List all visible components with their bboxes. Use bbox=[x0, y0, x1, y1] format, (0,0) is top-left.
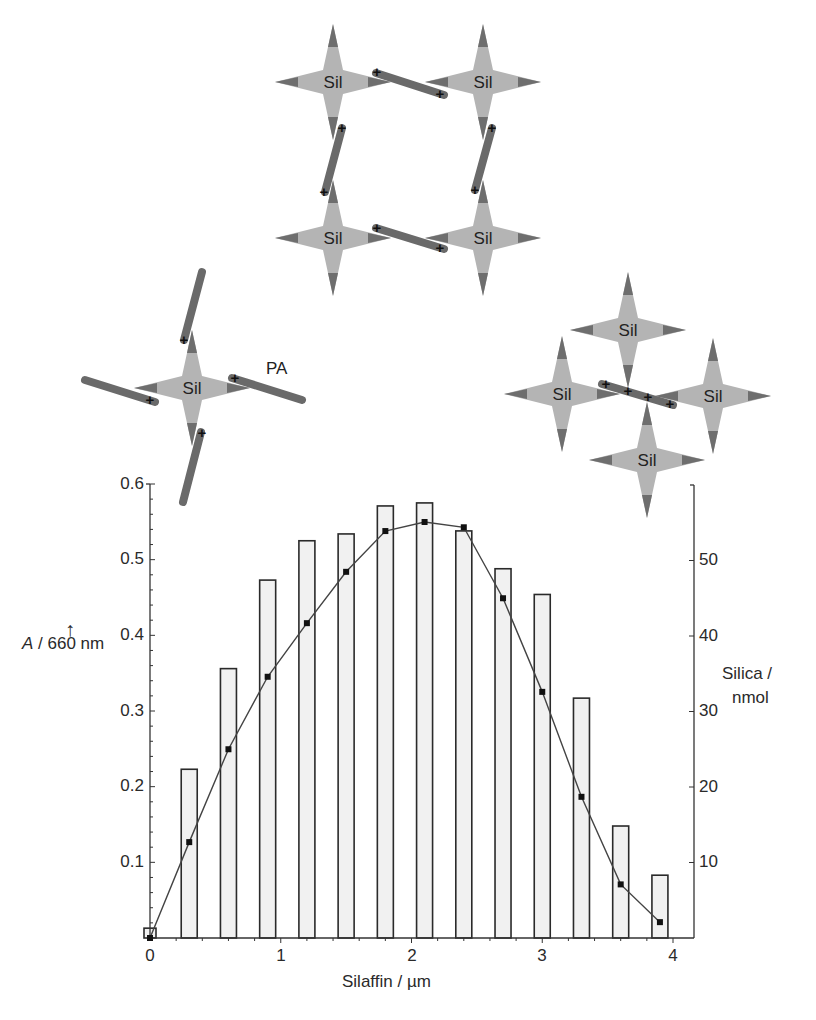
figure: Sil Sil Sil Sil + + + + bbox=[0, 0, 816, 1020]
x-tick: 0 bbox=[135, 946, 165, 966]
line-marker bbox=[265, 674, 271, 680]
x-axis-title: Silaffin / µm bbox=[342, 972, 431, 992]
line-marker bbox=[618, 881, 624, 887]
bar bbox=[652, 875, 668, 938]
line-marker bbox=[343, 569, 349, 575]
left-axis-title: A / 660 nm bbox=[22, 634, 104, 654]
right-axis-title-line2: nmol bbox=[732, 688, 769, 708]
bar bbox=[377, 506, 393, 938]
right-tick: 40 bbox=[699, 626, 718, 646]
line-marker bbox=[147, 935, 153, 941]
line-marker bbox=[422, 519, 428, 525]
right-tick: 10 bbox=[699, 852, 718, 872]
absorbance-bars bbox=[144, 503, 668, 938]
line-marker bbox=[578, 794, 584, 800]
bar bbox=[417, 503, 433, 938]
bar bbox=[299, 541, 315, 938]
bar bbox=[338, 534, 354, 938]
left-tick: 0.4 bbox=[104, 625, 144, 645]
right-tick: 20 bbox=[699, 777, 718, 797]
right-tick: 30 bbox=[699, 701, 718, 721]
line-marker bbox=[225, 746, 231, 752]
left-tick: 0.2 bbox=[104, 776, 144, 796]
x-tick: 3 bbox=[527, 946, 557, 966]
left-axis-title-symbol: A bbox=[22, 634, 33, 653]
line-marker bbox=[500, 595, 506, 601]
bar bbox=[534, 594, 550, 938]
line-marker bbox=[657, 919, 663, 925]
right-tick: 50 bbox=[699, 550, 718, 570]
x-tick: 2 bbox=[397, 946, 427, 966]
x-tick: 1 bbox=[266, 946, 296, 966]
line-marker bbox=[304, 620, 310, 626]
left-axis-title-unit: / 660 nm bbox=[33, 634, 104, 653]
bar bbox=[456, 531, 472, 938]
right-axis-title-line1: Silica / bbox=[722, 664, 772, 684]
bar bbox=[573, 698, 589, 938]
bar bbox=[260, 580, 276, 938]
line-marker bbox=[382, 528, 388, 534]
line-marker bbox=[461, 524, 467, 530]
left-tick: 0.6 bbox=[104, 474, 144, 494]
x-tick: 4 bbox=[658, 946, 688, 966]
left-tick: 0.1 bbox=[104, 852, 144, 872]
bar bbox=[220, 669, 236, 938]
bar bbox=[181, 769, 197, 938]
left-tick: 0.5 bbox=[104, 549, 144, 569]
line-marker bbox=[539, 689, 545, 695]
bar bbox=[495, 569, 511, 938]
line-marker bbox=[186, 839, 192, 845]
left-tick: 0.3 bbox=[104, 701, 144, 721]
